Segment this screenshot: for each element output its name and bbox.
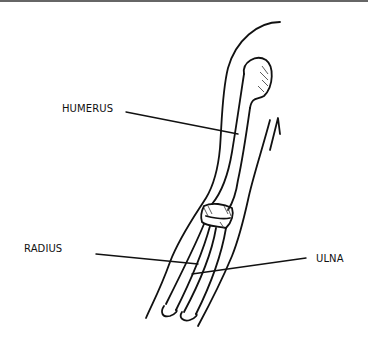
elbow-crease: [206, 216, 230, 219]
ulna-leader-line: [192, 258, 306, 274]
humerus-shaft-left: [212, 74, 244, 204]
wrist-radius-end: [162, 306, 177, 316]
label-radius: RADIUS: [24, 243, 62, 254]
radius-leader-line: [96, 254, 198, 264]
label-humerus: HUMERUS: [62, 103, 113, 114]
humerus-head: [244, 58, 272, 108]
wrist-ulna-end: [181, 312, 197, 321]
arm-bones-illustration: [0, 0, 368, 351]
label-ulna: ULNA: [316, 253, 344, 264]
arm-outline-arrow: [270, 118, 280, 150]
arm-outline-front: [198, 120, 270, 326]
